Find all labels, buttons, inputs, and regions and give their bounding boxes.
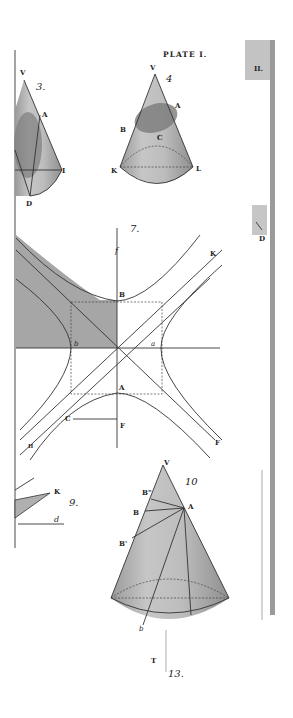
figure-10-cone: V 10 B" A B B' b — [111, 458, 229, 672]
fig7-label-F2: F — [215, 438, 220, 447]
fig7-label-A: A — [118, 383, 125, 392]
fig7-label-F1: F — [120, 421, 125, 430]
fig4-label-V: V — [149, 63, 156, 72]
figure-7-hyperbola: 7. f K B b a A C F F H — [16, 223, 222, 460]
figure-3-cone: V A I D 3. — [14, 68, 65, 208]
fig3-label-I: I — [62, 166, 65, 175]
fig9-label-d: d — [54, 515, 59, 524]
fig4-label-L: L — [196, 164, 201, 173]
figure-4-cone: V 4 A B C K L — [111, 63, 201, 184]
fig10-label-B1: B' — [119, 539, 127, 548]
edge-label-mid: D — [259, 234, 265, 243]
fig10-label-V: V — [163, 458, 170, 467]
fig7-label-f: f — [114, 246, 120, 255]
fig10-label-B2: B" — [142, 488, 152, 497]
fig7-label-a: a — [151, 340, 155, 348]
plate-title: PLATE I. — [163, 50, 207, 59]
figure-9: K 9. d — [15, 478, 79, 524]
fig4-number: 4 — [165, 73, 172, 84]
fig4-label-K: K — [111, 166, 118, 175]
fig3-label-V: V — [19, 68, 26, 77]
fig3-label-A: A — [41, 110, 48, 119]
fig3-number: 3. — [36, 81, 46, 92]
fig13-label-T: T — [151, 656, 157, 665]
plate-diagram: PLATE I. II. D V A I D 3. V 4 A — [0, 0, 293, 718]
adjacent-page-edge: II. D — [245, 40, 275, 620]
fig7-label-C: C — [65, 414, 71, 423]
fig10-label-A: A — [187, 502, 194, 511]
fig9-label-K: K — [54, 487, 61, 496]
fig7-label-H: H — [28, 443, 33, 449]
fig13-number: 13. — [168, 668, 184, 679]
fig7-label-K: K — [210, 249, 217, 258]
fig10-label-b: b — [139, 625, 144, 633]
fig7-label-b: b — [74, 340, 79, 348]
fig9-number: 9. — [69, 497, 79, 508]
fig10-label-B: B — [133, 508, 139, 517]
fig4-label-C: C — [157, 133, 163, 142]
fig7-number: 7. — [130, 223, 140, 234]
fig3-label-D: D — [26, 199, 32, 208]
figure-13: T 13. — [151, 656, 184, 679]
fig4-label-B: B — [120, 125, 126, 134]
fig10-number: 10 — [185, 476, 198, 487]
fig4-label-A: A — [174, 101, 181, 110]
fig7-label-B: B — [119, 290, 125, 299]
edge-label-top: II. — [254, 64, 263, 73]
